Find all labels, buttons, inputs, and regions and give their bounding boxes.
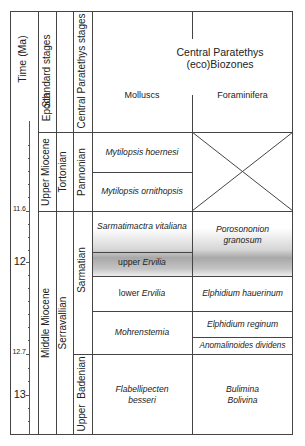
tick-label-11-6: 11.6	[6, 205, 26, 212]
stage-serravallian: Serravallian	[57, 283, 71, 363]
minor-tick	[28, 381, 30, 382]
foram-bulimina-bolivina: Bulimina Bolivina	[192, 354, 293, 435]
mollusc-flabellipecten-besseri: Flabellipecten besseri	[92, 354, 192, 435]
biozones-title: Central Paratethys (eco)Biozones	[150, 44, 290, 72]
flabellipecten-line2: besseri	[128, 395, 156, 406]
header-central-stages: Central Paratethys stages	[76, 12, 90, 130]
stage-upper-badenian: Upper Badenian	[76, 353, 90, 435]
foram-elphidium-reginum: Elphidium reginum	[192, 311, 293, 337]
biozones-title-line2: (eco)Biozones	[186, 58, 253, 70]
minor-tick	[28, 197, 30, 198]
time-header-tick	[29, 121, 30, 132]
minor-tick	[28, 288, 30, 289]
tick-13	[26, 395, 30, 396]
upper-ervilia-italic: Ervilia	[142, 257, 165, 268]
minor-tick	[28, 327, 30, 328]
minor-tick	[28, 224, 30, 225]
lower-ervilia-italic: Ervilia	[142, 288, 165, 299]
tick-label-12: 12	[6, 255, 26, 267]
stage-sarmatian: Sarmatian	[76, 239, 90, 301]
mollusc-sarmatimactra-vitaliana: Sarmatimactra vitaliana	[92, 219, 192, 233]
minor-tick	[28, 368, 30, 369]
tick-label-13: 13	[6, 388, 26, 400]
tick-12	[26, 262, 30, 263]
tick-12-7	[26, 354, 30, 355]
mollusc-mytilopsis-ornithopsis: Mytilopsis ornithopsis	[92, 172, 192, 211]
foram-porosononion-granosum: Porosononion granosum	[192, 222, 293, 248]
time-axis-line	[29, 121, 30, 435]
header-molluscs: Molluscs	[92, 88, 192, 102]
minor-tick	[28, 408, 30, 409]
minor-tick	[28, 171, 30, 172]
epoch-middle-miocene: Middle Miocene	[40, 283, 54, 363]
upper-ervilia-plain: upper	[118, 257, 142, 268]
foram-elphidium-hauerinum: Elphidium hauerinum	[192, 276, 293, 311]
tick-label-12-7: 12.7	[6, 348, 26, 355]
porosononion-line1: Porosononion	[216, 224, 269, 235]
crossed-box-icon	[192, 132, 293, 211]
mollusc-mohrenstemia: Mohrenstemia	[92, 311, 192, 354]
biozones-title-line1: Central Paratethys	[177, 46, 264, 58]
minor-tick	[28, 237, 30, 238]
col-line-standard	[56, 11, 57, 435]
stage-tortonian: Tortonian	[57, 142, 71, 202]
lower-ervilia-plain: lower	[119, 288, 142, 299]
boundary-11-6	[38, 211, 293, 212]
minor-tick	[28, 314, 30, 315]
minor-tick	[28, 340, 30, 341]
flabellipecten-line1: Flabellipecten	[115, 384, 168, 395]
header-time: Time (Ma)	[16, 24, 30, 94]
minor-tick	[28, 275, 30, 276]
col-line-central	[73, 11, 74, 435]
minor-tick	[28, 301, 30, 302]
minor-tick	[28, 421, 30, 422]
minor-tick	[28, 184, 30, 185]
stage-pannonian: Pannonian	[76, 141, 90, 203]
foram-anomalinoides-dividens: Anomalinoides dividens	[192, 337, 293, 354]
minor-tick	[28, 250, 30, 251]
bulimina-line2: Bolivina	[227, 395, 257, 406]
tick-11-6	[26, 211, 30, 212]
col-line-foram-top	[192, 11, 193, 39]
mollusc-mytilopsis-hoernesi: Mytilopsis hoernesi	[92, 132, 192, 172]
bulimina-line1: Bulimina	[226, 384, 259, 395]
header-standard-stages: Standard stages	[41, 11, 55, 131]
mollusc-lower-ervilia: lower Ervilia	[92, 276, 192, 311]
porosononion-line2: granosum	[223, 235, 261, 246]
col-line-epoch	[38, 11, 39, 435]
epoch-upper-miocene: Upper Miocene	[40, 132, 54, 212]
minor-tick	[28, 145, 30, 146]
header-foraminifera: Foraminifera	[192, 88, 293, 102]
minor-tick	[28, 158, 30, 159]
mollusc-upper-ervilia: upper Ervilia	[92, 252, 192, 272]
